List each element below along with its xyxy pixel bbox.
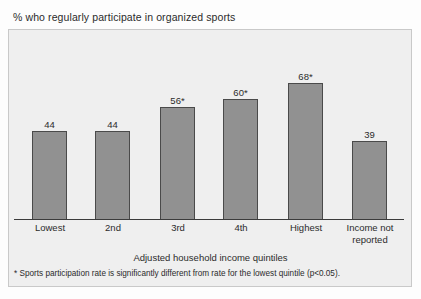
x-tick-label-4th: 4th bbox=[207, 222, 275, 234]
bar-value-label: 56* bbox=[170, 96, 184, 106]
x-tick-label-highest: Highest bbox=[272, 222, 340, 234]
bar-value-label: 44 bbox=[44, 120, 55, 130]
bar-group-highest: 68* bbox=[288, 72, 323, 221]
bar-3rd bbox=[160, 107, 195, 220]
plot-area: 44 44 56* 60* 68* 39 bbox=[14, 36, 406, 220]
bar-lowest bbox=[32, 131, 67, 220]
bar-group-lowest: 44 bbox=[32, 120, 67, 221]
x-tick-label-line-1: Income not bbox=[336, 222, 404, 234]
bar-2nd bbox=[95, 131, 130, 220]
x-tick-label-lowest: Lowest bbox=[16, 222, 84, 234]
bar-group-4th: 60* bbox=[223, 88, 258, 221]
x-axis-title: Adjusted household income quintiles bbox=[0, 252, 421, 263]
bar-value-label: 68* bbox=[298, 72, 312, 82]
bar-value-label: 39 bbox=[364, 130, 375, 140]
bar-group-3rd: 56* bbox=[160, 96, 195, 221]
bar-value-label: 60* bbox=[233, 88, 247, 98]
x-tick-label-line-2: reported bbox=[336, 234, 404, 246]
chart-footnote: * Sports participation rate is significa… bbox=[14, 269, 340, 278]
bar-group-2nd: 44 bbox=[95, 120, 130, 221]
x-tick-label-3rd: 3rd bbox=[144, 222, 212, 234]
bar-4th bbox=[223, 99, 258, 220]
chart-figure: % who regularly participate in organized… bbox=[0, 0, 421, 299]
x-axis-line bbox=[14, 219, 404, 220]
x-tick-label-income-not-reported: Income not reported bbox=[336, 222, 404, 245]
chart-title: % who regularly participate in organized… bbox=[13, 11, 235, 23]
bar-income-not-reported bbox=[352, 141, 387, 220]
bar-group-income-not-reported: 39 bbox=[352, 130, 387, 221]
bar-value-label: 44 bbox=[107, 120, 118, 130]
x-tick-label-2nd: 2nd bbox=[79, 222, 147, 234]
x-axis-tick-labels: Lowest 2nd 3rd 4th Highest Income not re… bbox=[14, 222, 406, 252]
bar-highest bbox=[288, 83, 323, 220]
